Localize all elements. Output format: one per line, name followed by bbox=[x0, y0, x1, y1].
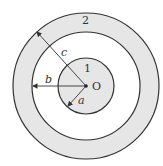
radius-c-label: c bbox=[61, 46, 67, 59]
concentric-circles-diagram: O 1 2 c b a bbox=[0, 0, 163, 166]
center-point bbox=[84, 84, 88, 88]
region-2-label: 2 bbox=[82, 14, 89, 27]
radius-b-label: b bbox=[45, 73, 52, 86]
center-label: O bbox=[92, 80, 101, 93]
radius-a-label: a bbox=[78, 94, 85, 107]
region-1-label: 1 bbox=[84, 62, 91, 75]
